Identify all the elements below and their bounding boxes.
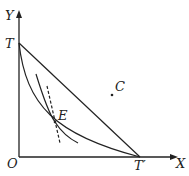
- diagram: Y X O T T′ C E: [0, 0, 189, 176]
- point-c-label: C: [115, 79, 125, 94]
- point-c-marker: [111, 94, 114, 97]
- y-axis-label: Y: [5, 8, 15, 23]
- point-e-marker: [54, 121, 57, 124]
- x-axis-label: X: [175, 156, 186, 171]
- origin-label: O: [7, 156, 18, 171]
- axes: [16, 10, 178, 160]
- point-e-label: E: [57, 108, 68, 123]
- y-axis-arrow-icon: [16, 10, 22, 18]
- point-t-label: T: [5, 36, 15, 51]
- point-tprime-label: T′: [134, 158, 146, 173]
- curve-through-e: [36, 74, 78, 143]
